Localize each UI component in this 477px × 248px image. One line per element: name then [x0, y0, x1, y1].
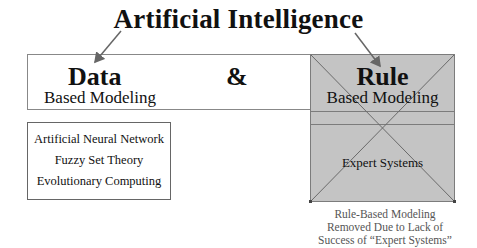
method-item: Evolutionary Computing: [28, 171, 170, 192]
note-line: Success of “Expert Systems”: [300, 234, 470, 247]
data-subheading: Based Modeling: [44, 88, 156, 108]
data-methods-box: Artificial Neural Network Fuzzy Set Theo…: [27, 122, 171, 200]
diagram-title: Artificial Intelligence: [0, 4, 477, 35]
note-line: Removed Due to Lack of: [300, 221, 470, 234]
arrow-to-data: [95, 31, 121, 62]
note-line: Rule-Based Modeling: [300, 208, 470, 221]
ampersand-connector: &: [226, 62, 248, 92]
rule-subheading: Based Modeling: [310, 88, 455, 108]
method-item: Fuzzy Set Theory: [28, 150, 170, 171]
removal-note: Rule-Based Modeling Removed Due to Lack …: [300, 208, 470, 247]
expert-systems-label: Expert Systems: [310, 155, 455, 171]
method-item: Artificial Neural Network: [28, 129, 170, 150]
